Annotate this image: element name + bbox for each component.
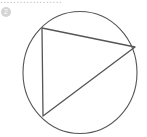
inscribed-triangle (42, 28, 135, 116)
geometry-figure (0, 0, 147, 137)
circumscribed-circle (23, 12, 137, 134)
